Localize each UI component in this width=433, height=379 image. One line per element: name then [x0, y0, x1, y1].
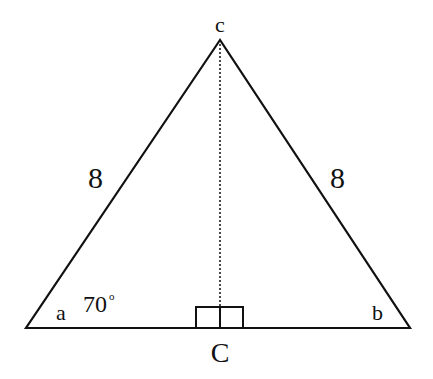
left-vertex-label: a — [56, 300, 66, 325]
left-side-length-label: 8 — [88, 161, 103, 194]
diagram-canvas: c a 70 o b C 8 8 — [0, 0, 433, 379]
apex-label: c — [215, 12, 225, 37]
right-side-length-label: 8 — [330, 161, 345, 194]
foot-label: C — [211, 337, 230, 368]
right-vertex-label: b — [372, 300, 383, 325]
degree-symbol: o — [109, 290, 115, 302]
right-angle-box-right — [220, 307, 243, 328]
right-angle-box-left — [196, 307, 220, 328]
angle-value-label: 70 — [83, 291, 107, 317]
triangle-diagram: c a 70 o b C 8 8 — [0, 0, 433, 379]
isosceles-triangle — [26, 40, 410, 328]
